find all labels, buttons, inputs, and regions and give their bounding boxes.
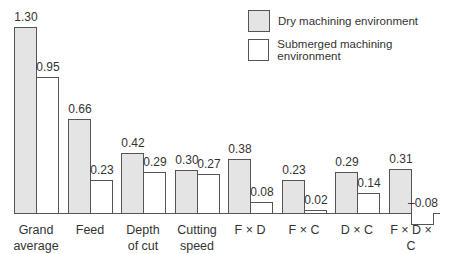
bar-dry [228, 159, 251, 214]
value-label-submerged: –0.08 [408, 196, 438, 210]
category-label: F × C [289, 222, 320, 238]
bar-dry [121, 153, 144, 214]
value-label-dry: 0.29 [335, 155, 358, 169]
value-label-dry: 0.31 [389, 152, 412, 166]
bar-submerged [304, 210, 327, 214]
category-label: Grand average [13, 222, 58, 254]
value-label-dry: 1.30 [14, 10, 37, 24]
bar-submerged [90, 180, 113, 214]
legend-label-submerged: Submerged machining environment [277, 38, 453, 62]
legend-item-submerged: Submerged machining environment [248, 38, 453, 62]
category-label: D × C [341, 222, 373, 238]
category-label: Cutting speed [177, 222, 217, 254]
bar-submerged [197, 174, 220, 214]
bar-submerged [143, 172, 166, 214]
value-label-submerged: 0.08 [250, 185, 273, 199]
value-label-submerged: 0.95 [36, 60, 59, 74]
bar-dry [282, 180, 305, 214]
value-label-submerged: 0.23 [90, 163, 113, 177]
bar-submerged [250, 202, 273, 214]
category-label: F × D [235, 222, 266, 238]
value-label-dry: 0.42 [121, 136, 144, 150]
value-label-submerged: 0.29 [143, 155, 166, 169]
value-label-submerged: 0.14 [357, 176, 380, 190]
category-label: Depth of cut [126, 222, 159, 254]
category-label: Feed [76, 222, 105, 238]
value-label-dry: 0.30 [175, 153, 198, 167]
bar-dry [14, 27, 37, 214]
bar-dry [335, 172, 358, 214]
bar-submerged [357, 193, 380, 214]
legend-label-dry: Dry machining environment [278, 15, 418, 27]
bar-dry [175, 170, 198, 214]
value-label-submerged: 0.02 [304, 193, 327, 207]
value-label-submerged: 0.27 [197, 157, 220, 171]
legend-swatch-submerged [248, 39, 269, 61]
value-label-dry: 0.38 [228, 142, 251, 156]
legend-item-dry: Dry machining environment [248, 10, 418, 32]
bar-chart: Dry machining environment Submerged mach… [0, 0, 453, 254]
value-label-dry: 0.66 [68, 102, 91, 116]
legend-swatch-dry [248, 10, 270, 32]
bar-dry [68, 119, 91, 214]
category-label: F × D × C [390, 222, 432, 254]
value-label-dry: 0.23 [282, 163, 305, 177]
bar-submerged [36, 77, 59, 214]
